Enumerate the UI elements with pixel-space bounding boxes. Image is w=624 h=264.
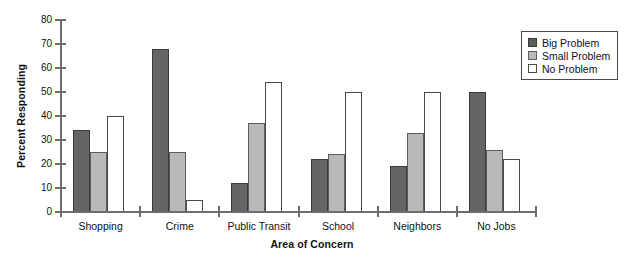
y-tick-70 — [55, 43, 66, 45]
y-tick-40 — [55, 115, 66, 117]
y-tick-label-60: 60 — [30, 63, 52, 73]
x-tick-1 — [139, 206, 141, 217]
y-tick-10 — [55, 187, 66, 189]
legend-label-small-problem: Small Problem — [542, 50, 610, 62]
bar-public-transit-big-problem — [231, 183, 248, 212]
legend-item-small-problem: Small Problem — [528, 49, 610, 62]
y-tick-60 — [55, 67, 66, 69]
x-tick-0 — [60, 206, 62, 217]
bar-public-transit-no-problem — [265, 82, 282, 212]
y-tick-label-0: 0 — [30, 207, 52, 217]
bar-no-jobs-small-problem — [486, 150, 503, 212]
legend-swatch-small-problem-icon — [528, 51, 537, 60]
bar-neighbors-small-problem — [407, 133, 424, 212]
x-group-label-school: School — [299, 220, 378, 232]
y-tick-30 — [55, 139, 66, 141]
bar-shopping-no-problem — [107, 116, 124, 212]
bar-no-jobs-big-problem — [469, 92, 486, 212]
y-tick-20 — [55, 163, 66, 165]
x-group-label-shopping: Shopping — [61, 220, 140, 232]
bar-school-big-problem — [311, 159, 328, 212]
x-group-label-public-transit: Public Transit — [219, 220, 298, 232]
y-tick-label-40: 40 — [30, 111, 52, 121]
legend-item-big-problem: Big Problem — [528, 36, 610, 49]
x-axis-label: Area of Concern — [0, 238, 624, 250]
bar-chart: Percent Responding 01020304050607080 Sho… — [0, 0, 624, 264]
legend: Big Problem Small Problem No Problem — [521, 31, 618, 80]
x-tick-6 — [535, 206, 537, 217]
x-group-label-neighbors: Neighbors — [378, 220, 457, 232]
bar-shopping-small-problem — [90, 152, 107, 212]
y-tick-label-20: 20 — [30, 159, 52, 169]
legend-label-big-problem: Big Problem — [542, 37, 599, 49]
bar-school-small-problem — [328, 154, 345, 212]
bar-crime-small-problem — [169, 152, 186, 212]
legend-label-no-problem: No Problem — [542, 63, 597, 75]
bar-crime-big-problem — [152, 49, 169, 212]
y-tick-label-70: 70 — [30, 39, 52, 49]
x-tick-2 — [218, 206, 220, 217]
bar-school-no-problem — [345, 92, 362, 212]
y-tick-label-10: 10 — [30, 183, 52, 193]
y-tick-label-30: 30 — [30, 135, 52, 145]
x-tick-3 — [298, 206, 300, 217]
bar-shopping-big-problem — [73, 130, 90, 212]
bar-public-transit-small-problem — [248, 123, 265, 212]
legend-swatch-big-problem-icon — [528, 38, 537, 47]
x-tick-5 — [456, 206, 458, 217]
legend-swatch-no-problem-icon — [528, 64, 537, 73]
y-tick-50 — [55, 91, 66, 93]
x-group-label-no-jobs: No Jobs — [457, 220, 536, 232]
y-tick-label-80: 80 — [30, 15, 52, 25]
bar-no-jobs-no-problem — [503, 159, 520, 212]
y-axis-label: Percent Responding — [14, 8, 28, 224]
bar-neighbors-big-problem — [390, 166, 407, 212]
x-group-label-crime: Crime — [140, 220, 219, 232]
legend-item-no-problem: No Problem — [528, 62, 610, 75]
y-tick-label-50: 50 — [30, 87, 52, 97]
x-tick-4 — [377, 206, 379, 217]
y-tick-80 — [55, 19, 66, 21]
bar-neighbors-no-problem — [424, 92, 441, 212]
